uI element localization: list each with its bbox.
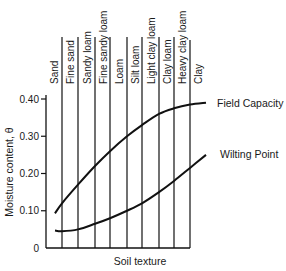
category-label: Silt loam — [130, 46, 141, 84]
x-axis-label: Soil texture — [114, 255, 167, 267]
category-label: Fine sand — [65, 40, 76, 84]
y-tick-label: 0.10 — [20, 205, 40, 216]
category-label: Sand — [49, 61, 60, 84]
category-label: Loam — [114, 59, 125, 84]
wilting-point-label: Wilting Point — [220, 148, 278, 160]
category-label: Clay loam — [162, 40, 173, 84]
category-label: Sandy loam — [82, 31, 93, 84]
category-label: Fine sandy loam — [98, 11, 109, 84]
category-label: Clay — [193, 64, 204, 84]
y-axis-label: Moisture content, θ — [3, 127, 15, 216]
y-tick-label: 0 — [33, 243, 39, 254]
soil-moisture-chart: 00.100.200.300.40 SandFine sandSandy loa… — [0, 0, 286, 271]
y-ticks: 00.100.200.300.40 — [20, 94, 46, 254]
y-tick-label: 0.40 — [20, 94, 40, 105]
y-tick-label: 0.20 — [20, 168, 40, 179]
field-capacity-label: Field Capacity — [217, 97, 284, 109]
category-label: Heavy clay loam — [177, 11, 188, 84]
category-label: Light clay loam — [146, 17, 157, 84]
y-tick-label: 0.30 — [20, 131, 40, 142]
